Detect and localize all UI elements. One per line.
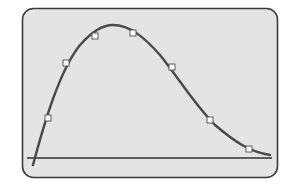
data-point-marker [169,64,175,70]
data-point-marker [246,146,252,152]
data-point-marker [45,115,51,121]
chart-panel [23,9,278,178]
data-point-marker [92,33,98,39]
chart [0,0,290,187]
data-point-marker [207,117,213,123]
data-point-marker [130,30,136,36]
chart-plot [0,0,290,187]
data-point-marker [63,60,69,66]
